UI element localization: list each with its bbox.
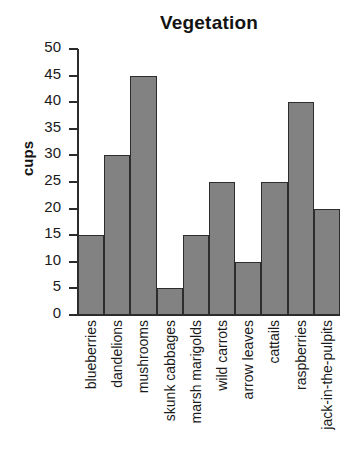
x-axis-tick-label: raspberries [294, 320, 308, 390]
x-axis-tick-label: marsh marigolds [189, 320, 203, 423]
bar [130, 76, 156, 315]
bar [288, 102, 314, 315]
y-tick-0: 0 [69, 314, 78, 316]
y-tick-label: 10 [44, 252, 61, 268]
y-tick-5: 5 [69, 287, 78, 289]
y-tick-10: 10 [69, 261, 78, 263]
y-tick-45: 45 [69, 75, 78, 77]
bar [261, 182, 287, 315]
y-tick-label: 45 [44, 66, 61, 82]
x-axis-tick-label: wild carrots [215, 320, 229, 391]
bar [209, 182, 235, 315]
y-tick-25: 25 [69, 181, 78, 183]
x-axis-tick-label: skunk cabbages [163, 320, 177, 421]
x-axis-tick-label: blueberries [84, 320, 98, 389]
y-axis-title: cups [19, 129, 36, 189]
y-tick-50: 50 [69, 48, 78, 50]
y-tick-label: 40 [44, 92, 61, 108]
y-tick-35: 35 [69, 128, 78, 130]
y-tick-label: 35 [44, 119, 61, 135]
y-tick-label: 5 [53, 278, 61, 294]
x-axis-tick-label: cattails [267, 320, 281, 364]
x-label-slot: dandelions [104, 320, 130, 461]
x-label-slot: cattails [261, 320, 287, 461]
y-tick-40: 40 [69, 101, 78, 103]
y-tick-label: 25 [44, 172, 61, 188]
x-axis-tick-label: mushrooms [136, 320, 150, 393]
x-label-slot: jack-in-the-pulpits [314, 320, 340, 461]
x-label-slot: arrow leaves [235, 320, 261, 461]
x-axis-tick-label: dandelions [110, 320, 124, 388]
bar [78, 235, 104, 315]
bar [104, 155, 130, 315]
plot-area: 50454035302520151050 blueberriesdandelio… [78, 44, 340, 315]
chart-screenshot: Vegetation cups 50454035302520151050 blu… [0, 0, 358, 461]
x-axis-tick-label: arrow leaves [241, 320, 255, 399]
chart-title: Vegetation [78, 12, 340, 34]
x-label-slot: marsh marigolds [183, 320, 209, 461]
y-tick-label: 0 [53, 305, 61, 321]
y-tick-label: 50 [44, 39, 61, 55]
y-tick-15: 15 [69, 234, 78, 236]
bar [235, 262, 261, 315]
y-tick-30: 30 [69, 154, 78, 156]
x-label-slot: blueberries [78, 320, 104, 461]
x-label-slot: mushrooms [130, 320, 156, 461]
x-axis-tick-label: jack-in-the-pulpits [320, 320, 334, 430]
y-tick-label: 30 [44, 145, 61, 161]
y-tick-label: 20 [44, 199, 61, 215]
x-label-slot: wild carrots [209, 320, 235, 461]
x-label-slot: raspberries [288, 320, 314, 461]
bar [183, 235, 209, 315]
bar [157, 288, 183, 315]
x-label-slot: skunk cabbages [157, 320, 183, 461]
y-tick-20: 20 [69, 208, 78, 210]
y-tick-label: 15 [44, 225, 61, 241]
bar [314, 209, 340, 315]
